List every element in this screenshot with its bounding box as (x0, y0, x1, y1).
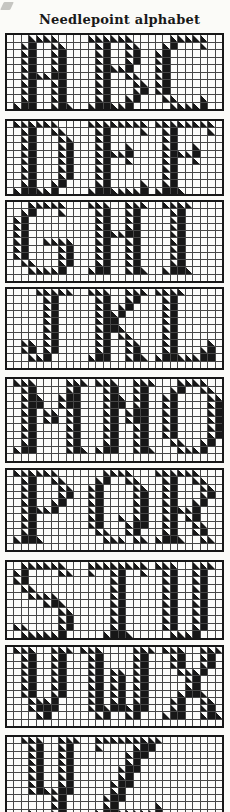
empty-cell (89, 50, 95, 57)
empty-cell (81, 744, 87, 750)
stitch-cell (201, 43, 207, 50)
empty-cell (208, 158, 214, 164)
stitch-cell (96, 744, 102, 750)
empty-cell (149, 752, 155, 758)
stitch-cell (126, 631, 132, 638)
empty-cell (186, 409, 192, 416)
stitch-cell (126, 529, 132, 535)
stitch-cell (67, 766, 73, 772)
empty-cell (141, 544, 147, 550)
empty-cell (186, 499, 192, 505)
stitch-cell (134, 224, 140, 230)
empty-cell (37, 432, 43, 439)
empty-cell (81, 65, 87, 72)
empty-cell (119, 253, 125, 259)
stitch-cell (89, 647, 95, 653)
empty-cell (149, 394, 155, 401)
stitch-cell (74, 439, 80, 446)
stitch-cell (44, 507, 50, 513)
empty-cell (67, 217, 73, 223)
empty-cell (186, 95, 192, 102)
empty-cell (52, 577, 58, 584)
empty-cell (126, 662, 132, 668)
stitch-cell (96, 173, 102, 179)
empty-cell (216, 536, 222, 542)
stitch-cell (29, 744, 35, 750)
empty-cell (156, 379, 162, 386)
stitch-cell (134, 654, 140, 660)
stitch-cell (104, 470, 110, 476)
empty-cell (193, 654, 199, 660)
empty-cell (81, 705, 87, 711)
stitch-cell (208, 394, 214, 401)
empty-cell (81, 289, 87, 295)
stitch-cell (96, 80, 102, 87)
stitch-cell (89, 485, 95, 491)
stitch-cell (29, 477, 35, 483)
stitch-cell (163, 143, 169, 149)
empty-cell (59, 585, 65, 592)
stitch-cell (111, 424, 117, 431)
empty-cell (14, 737, 20, 743)
empty-cell (59, 318, 65, 324)
stitch-cell (37, 73, 43, 80)
empty-cell (156, 454, 162, 461)
stitch-cell (178, 439, 184, 446)
empty-cell (178, 180, 184, 186)
stitch-cell (178, 698, 184, 704)
stitch-cell (119, 600, 125, 607)
empty-cell (74, 296, 80, 302)
empty-cell (29, 275, 35, 281)
empty-cell (74, 454, 80, 461)
stitch-cell (186, 683, 192, 689)
stitch-cell (201, 562, 207, 569)
stitch-cell (178, 217, 184, 223)
empty-cell (89, 73, 95, 80)
stitch-cell (119, 570, 125, 577)
stitch-cell (37, 470, 43, 476)
empty-cell (37, 454, 43, 461)
empty-cell (201, 128, 207, 134)
stitch-cell (141, 354, 147, 360)
empty-cell (149, 73, 155, 80)
stitch-cell (104, 267, 110, 273)
stitch-cell (96, 304, 102, 310)
stitch-cell (126, 562, 132, 569)
empty-cell (216, 705, 222, 711)
stitch-cell (119, 577, 125, 584)
stitch-cell (186, 447, 192, 454)
empty-cell (201, 720, 207, 726)
stitch-cell (29, 424, 35, 431)
stitch-cell (111, 103, 117, 110)
empty-cell (52, 432, 58, 439)
empty-cell (74, 624, 80, 631)
empty-cell (149, 720, 155, 726)
empty-cell (201, 231, 207, 237)
empty-cell (89, 65, 95, 72)
stitch-cell (44, 470, 50, 476)
empty-cell (74, 173, 80, 179)
empty-cell (7, 432, 13, 439)
empty-cell (178, 562, 184, 569)
empty-cell (156, 296, 162, 302)
empty-cell (216, 136, 222, 142)
empty-cell (22, 311, 28, 317)
empty-cell (14, 477, 20, 483)
empty-cell (193, 267, 199, 273)
stitch-cell (193, 616, 199, 623)
stitch-cell (171, 260, 177, 266)
stitch-cell (37, 788, 43, 794)
empty-cell (81, 402, 87, 409)
empty-cell (37, 318, 43, 324)
empty-cell (178, 600, 184, 607)
stitch-cell (67, 788, 73, 794)
empty-cell (67, 362, 73, 368)
empty-cell (81, 454, 87, 461)
stitch-cell (171, 662, 177, 668)
stitch-cell (171, 158, 177, 164)
stitch-cell (37, 562, 43, 569)
empty-cell (134, 570, 140, 577)
empty-cell (29, 246, 35, 252)
empty-cell (178, 802, 184, 808)
empty-cell (201, 180, 207, 186)
